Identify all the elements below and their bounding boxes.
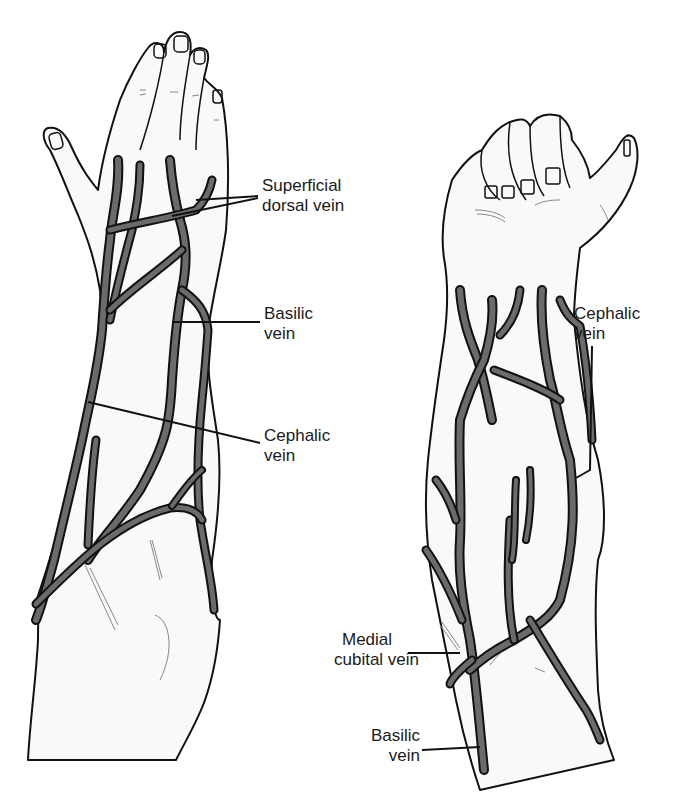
label-cephalic-vein-left: Cephalic vein bbox=[264, 426, 330, 466]
label-basilic-vein-right: Basilic vein bbox=[340, 726, 420, 766]
label-basilic-vein-left: Basilic vein bbox=[264, 304, 313, 344]
label-cephalic-vein-right: Cephalic vein bbox=[574, 304, 640, 344]
label-medial-cubital-vein: Medial cubital vein bbox=[336, 630, 406, 670]
vein-anatomy-figure: Superficial dorsal vein Basilic vein Cep… bbox=[0, 0, 680, 806]
left-arm-illustration bbox=[0, 0, 680, 806]
label-superficial-dorsal-vein: Superficial dorsal vein bbox=[262, 176, 344, 216]
